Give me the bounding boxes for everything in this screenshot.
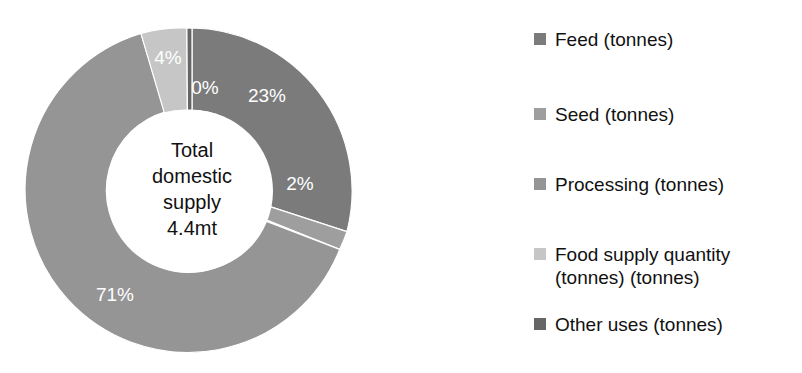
slice-label-other-uses: 0% <box>191 77 219 98</box>
legend-label-processing: Processing (tonnes) <box>555 173 724 196</box>
legend-swatch-seed <box>534 108 546 120</box>
donut-chart-figure: 23% 2% 71% 4% 0% Total domestic supply 4… <box>0 0 802 373</box>
slice-label-seed: 2% <box>286 173 314 194</box>
slice-label-processing: 71% <box>96 284 134 305</box>
legend-label-feed: Feed (tonnes) <box>555 28 673 51</box>
slice-label-feed: 23% <box>248 85 286 106</box>
legend-label-food-supply: Food supply quantity(tonnes) (tonnes) <box>555 243 730 289</box>
legend-swatch-other-uses <box>534 318 546 330</box>
legend-swatch-processing <box>534 178 546 190</box>
chart-legend: Feed (tonnes) Seed (tonnes) Processing (… <box>528 0 802 373</box>
donut-chart-area: 23% 2% 71% 4% 0% Total domestic supply 4… <box>0 0 420 373</box>
legend-item-other-uses[interactable]: Other uses (tonnes) <box>534 313 802 336</box>
slice-label-food-supply: 4% <box>154 47 182 68</box>
legend-swatch-feed <box>534 33 546 45</box>
legend-label-seed: Seed (tonnes) <box>555 103 674 126</box>
legend-item-feed[interactable]: Feed (tonnes) <box>534 28 802 51</box>
donut-chart-svg: 23% 2% 71% 4% 0% Total domestic supply 4… <box>0 0 420 373</box>
legend-item-processing[interactable]: Processing (tonnes) <box>534 173 802 196</box>
legend-item-seed[interactable]: Seed (tonnes) <box>534 103 802 126</box>
center-text-line-2: domestic <box>152 165 232 187</box>
center-text-line-3: supply <box>163 191 221 213</box>
legend-item-food-supply[interactable]: Food supply quantity(tonnes) (tonnes) <box>534 243 802 289</box>
center-text-line-4: 4.4mt <box>167 217 217 239</box>
legend-swatch-food-supply <box>534 248 546 260</box>
center-text-line-1: Total <box>171 139 213 161</box>
legend-label-other-uses: Other uses (tonnes) <box>555 313 723 336</box>
